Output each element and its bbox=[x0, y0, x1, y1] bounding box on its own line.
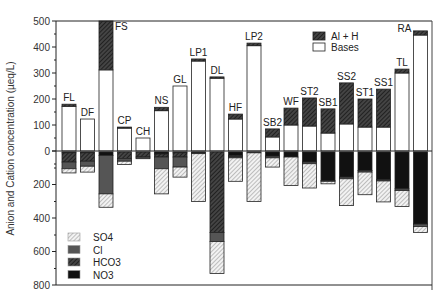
category-label: FL bbox=[63, 92, 75, 103]
bar-DF bbox=[81, 119, 95, 172]
segment-no3 bbox=[377, 152, 391, 180]
segment-hco3 bbox=[210, 152, 224, 232]
legend-label: Cl bbox=[93, 245, 102, 256]
segment-so4 bbox=[99, 194, 113, 207]
category-label: SB2 bbox=[263, 117, 282, 128]
segment-bases bbox=[247, 46, 261, 151]
category-label: RA bbox=[398, 23, 412, 34]
segment-hco3 bbox=[62, 153, 76, 162]
segment-no3 bbox=[303, 152, 317, 162]
category-label: SS2 bbox=[337, 71, 356, 82]
y-tick-label: 500 bbox=[33, 16, 50, 27]
segment-so4 bbox=[340, 179, 354, 206]
segment-alh bbox=[62, 104, 76, 106]
segment-alh bbox=[155, 107, 169, 110]
legend-anions: SO4ClHCO3NO3 bbox=[68, 232, 121, 281]
bar-LP1 bbox=[192, 59, 206, 201]
segment-so4 bbox=[173, 167, 187, 177]
bar-FS bbox=[99, 21, 113, 207]
segment-alh bbox=[210, 77, 224, 78]
bar-SS1 bbox=[377, 89, 391, 202]
segment-no3 bbox=[340, 152, 354, 177]
segment-no3 bbox=[358, 152, 372, 170]
segment-alh bbox=[284, 108, 298, 125]
segment-hco3 bbox=[136, 152, 150, 157]
segment-no3 bbox=[229, 152, 243, 155]
bar-GL bbox=[173, 86, 187, 177]
y-tick-label: 100 bbox=[33, 120, 50, 131]
legend-swatch bbox=[68, 233, 80, 241]
category-label: HF bbox=[229, 102, 242, 113]
segment-bases bbox=[377, 127, 391, 151]
segment-alh bbox=[118, 127, 132, 128]
y-tick-label: 0 bbox=[44, 146, 50, 157]
legend-swatch bbox=[313, 32, 325, 40]
bar-HF bbox=[229, 114, 243, 181]
category-label: SB1 bbox=[319, 97, 338, 108]
category-label: GL bbox=[173, 74, 187, 85]
y-axis-label: Anion and Cation concentration (µeq/L) bbox=[5, 44, 16, 254]
category-label: DF bbox=[81, 107, 94, 118]
segment-cl bbox=[173, 157, 187, 167]
segment-cl bbox=[99, 155, 113, 194]
segment-so4 bbox=[303, 164, 317, 188]
category-label: FS bbox=[115, 21, 128, 32]
category-label: SS1 bbox=[374, 77, 393, 88]
segment-no3 bbox=[99, 152, 113, 155]
segment-bases bbox=[266, 137, 280, 151]
y-tick-label: 600 bbox=[33, 246, 50, 257]
segment-cl bbox=[81, 161, 95, 166]
segment-alh bbox=[395, 69, 409, 73]
category-label: DL bbox=[211, 65, 224, 76]
bar-RA bbox=[414, 31, 428, 233]
segment-alh bbox=[303, 98, 317, 126]
segment-bases bbox=[99, 70, 113, 151]
segment-bases bbox=[414, 35, 428, 151]
bar-groups bbox=[62, 21, 428, 273]
category-label: WF bbox=[283, 96, 299, 107]
segment-alh bbox=[192, 59, 206, 61]
y-tick-label: 200 bbox=[33, 179, 50, 190]
y-tick-label: 400 bbox=[33, 42, 50, 53]
segment-so4 bbox=[358, 172, 372, 195]
bar-SB1 bbox=[321, 109, 335, 184]
segment-so4 bbox=[395, 191, 409, 207]
segment-alh bbox=[358, 99, 372, 127]
segment-so4 bbox=[229, 158, 243, 181]
bar-ST1 bbox=[358, 99, 372, 195]
segment-hco3 bbox=[155, 154, 169, 157]
bar-WF bbox=[284, 108, 298, 185]
bar-CP bbox=[118, 127, 132, 164]
segment-no3 bbox=[266, 152, 280, 156]
segment-so4 bbox=[414, 227, 428, 233]
segment-no3 bbox=[321, 152, 335, 180]
segment-so4 bbox=[192, 154, 206, 202]
category-label: ST1 bbox=[356, 87, 375, 98]
segment-bases bbox=[136, 138, 150, 151]
y-tick-label: 300 bbox=[33, 68, 50, 79]
y-tick-label: 400 bbox=[33, 213, 50, 224]
bar-DL bbox=[210, 77, 224, 274]
segment-cl bbox=[62, 162, 76, 169]
legend-swatch bbox=[313, 43, 325, 51]
segment-no3 bbox=[284, 152, 298, 157]
category-label: TL bbox=[396, 57, 408, 68]
segment-alh bbox=[99, 21, 113, 70]
segment-hco3 bbox=[118, 152, 132, 159]
segment-bases bbox=[284, 125, 298, 151]
category-label: CP bbox=[118, 115, 132, 126]
segment-alh bbox=[229, 114, 243, 119]
category-label: NS bbox=[155, 95, 169, 106]
segment-alh bbox=[377, 89, 391, 127]
bar-TL bbox=[395, 69, 409, 206]
chart-canvas: 0100200300400500200400600800 FLDFFSCPCHN… bbox=[0, 0, 443, 303]
segment-bases bbox=[395, 73, 409, 151]
segment-alh bbox=[340, 83, 354, 124]
legend-label: Al + H bbox=[331, 31, 359, 42]
bar-CH bbox=[136, 138, 150, 159]
legend-label: NO3 bbox=[93, 270, 114, 281]
segment-hco3 bbox=[81, 153, 95, 161]
category-label: ST2 bbox=[300, 86, 319, 97]
segment-alh bbox=[247, 43, 261, 46]
segment-bases bbox=[118, 128, 132, 151]
